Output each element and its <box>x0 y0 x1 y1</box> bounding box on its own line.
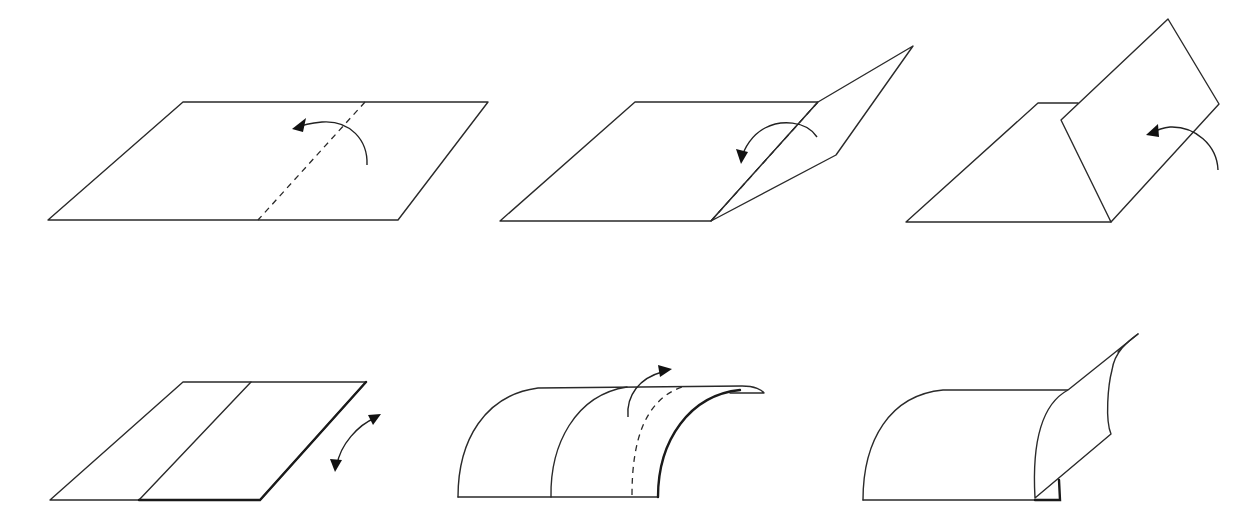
origami-folding-diagram: Flat sheet with dashed fold line; arrow … <box>0 0 1255 529</box>
